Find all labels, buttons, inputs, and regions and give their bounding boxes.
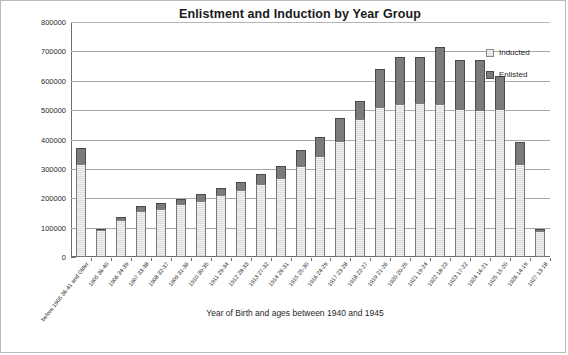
x-axis-tick: [350, 258, 351, 261]
x-axis-tick: [430, 258, 431, 261]
bar-segment-inducted[interactable]: [256, 184, 266, 257]
bar-segment-inducted[interactable]: [296, 166, 306, 257]
bar-segment-enlisted[interactable]: [395, 57, 405, 105]
bar-segment-enlisted[interactable]: [76, 148, 86, 163]
bar-segment-enlisted[interactable]: [375, 69, 385, 107]
bar-stack[interactable]: [176, 199, 186, 257]
bar-segment-inducted[interactable]: [495, 109, 505, 257]
bar-group[interactable]: [191, 22, 211, 257]
y-axis-tick-label: 200000: [10, 194, 66, 203]
bar-segment-inducted[interactable]: [196, 201, 206, 257]
legend-item[interactable]: Inducted: [486, 48, 558, 57]
x-axis-tick: [111, 258, 112, 261]
y-axis-tick-label: 0: [10, 253, 66, 262]
bar-group[interactable]: [350, 22, 370, 257]
bar-segment-inducted[interactable]: [136, 211, 146, 257]
bar-segment-enlisted[interactable]: [455, 60, 465, 108]
bar-segment-enlisted[interactable]: [355, 101, 365, 119]
bar-segment-inducted[interactable]: [415, 103, 425, 257]
y-axis-tick-label: 500000: [10, 106, 66, 115]
x-axis-tick-labels: before 1905 36-41 and Older1905 36-40190…: [71, 261, 550, 313]
bar-stack[interactable]: [475, 60, 485, 257]
bar-stack[interactable]: [136, 206, 146, 257]
bar-segment-enlisted[interactable]: [435, 47, 445, 104]
bar-group[interactable]: [291, 22, 311, 257]
legend-swatch-inducted: [486, 49, 494, 57]
bar-segment-inducted[interactable]: [276, 178, 286, 257]
bar-segment-enlisted[interactable]: [296, 150, 306, 166]
bar-group[interactable]: [430, 22, 450, 257]
bar-segment-inducted[interactable]: [216, 195, 226, 257]
bar-segment-inducted[interactable]: [335, 141, 345, 257]
bar-group[interactable]: [390, 22, 410, 257]
bar-stack[interactable]: [395, 57, 405, 257]
bar-group[interactable]: [251, 22, 271, 257]
bar-segment-enlisted[interactable]: [256, 174, 266, 184]
bar-segment-enlisted[interactable]: [515, 142, 525, 164]
bar-segment-enlisted[interactable]: [315, 137, 325, 155]
bar-group[interactable]: [370, 22, 390, 257]
bar-group[interactable]: [211, 22, 231, 257]
bar-stack[interactable]: [495, 76, 505, 257]
bar-stack[interactable]: [196, 194, 206, 257]
y-axis-tick-labels: 8000007000006000005000004000003000002000…: [6, 22, 66, 258]
bar-stack[interactable]: [236, 182, 246, 257]
bar-stack[interactable]: [535, 229, 545, 257]
bar-segment-inducted[interactable]: [116, 220, 126, 257]
bar-segment-enlisted[interactable]: [475, 60, 485, 110]
bar-segment-inducted[interactable]: [176, 204, 186, 257]
x-axis-tick: [370, 258, 371, 261]
bar-stack[interactable]: [375, 69, 385, 257]
x-axis-tick-label: 1914 26-31: [267, 261, 289, 287]
bar-stack[interactable]: [455, 60, 465, 257]
bar-segment-inducted[interactable]: [236, 190, 246, 257]
bar-stack[interactable]: [335, 118, 345, 257]
bar-group[interactable]: [450, 22, 470, 257]
bar-stack[interactable]: [216, 188, 226, 257]
x-axis-tick: [530, 258, 531, 261]
bar-group[interactable]: [131, 22, 151, 257]
bar-group[interactable]: [151, 22, 171, 257]
bar-group[interactable]: [91, 22, 111, 257]
bar-group[interactable]: [171, 22, 191, 257]
legend-item[interactable]: Enlisted: [486, 70, 558, 79]
bar-segment-enlisted[interactable]: [415, 57, 425, 103]
bar-segment-inducted[interactable]: [475, 110, 485, 257]
bar-segment-inducted[interactable]: [96, 230, 106, 257]
bar-group[interactable]: [71, 22, 91, 257]
x-axis-tick-label: 1927 13-18: [526, 261, 548, 287]
bar-stack[interactable]: [296, 150, 306, 257]
bar-segment-inducted[interactable]: [435, 104, 445, 257]
bar-stack[interactable]: [76, 148, 86, 257]
bar-segment-inducted[interactable]: [515, 164, 525, 257]
bar-stack[interactable]: [116, 217, 126, 257]
bar-stack[interactable]: [96, 229, 106, 257]
bar-group[interactable]: [330, 22, 350, 257]
bar-group[interactable]: [111, 22, 131, 257]
bar-segment-inducted[interactable]: [156, 209, 166, 257]
bar-stack[interactable]: [276, 166, 286, 257]
bar-group[interactable]: [231, 22, 251, 257]
bar-segment-inducted[interactable]: [76, 164, 86, 257]
bar-segment-enlisted[interactable]: [335, 118, 345, 141]
bar-stack[interactable]: [256, 174, 266, 257]
x-axis-tick: [490, 258, 491, 261]
bar-segment-inducted[interactable]: [395, 104, 405, 257]
bar-stack[interactable]: [156, 203, 166, 257]
bar-segment-inducted[interactable]: [455, 109, 465, 257]
bar-stack[interactable]: [415, 57, 425, 257]
bar-stack[interactable]: [515, 142, 525, 257]
bar-stack[interactable]: [435, 47, 445, 257]
y-axis-tick-label: 100000: [10, 223, 66, 232]
bar-segment-inducted[interactable]: [375, 107, 385, 257]
bar-segment-inducted[interactable]: [535, 231, 545, 257]
bar-segment-inducted[interactable]: [315, 156, 325, 257]
bar-stack[interactable]: [315, 137, 325, 257]
bar-segment-enlisted[interactable]: [276, 166, 286, 178]
bar-segment-inducted[interactable]: [355, 119, 365, 257]
bar-group[interactable]: [410, 22, 430, 257]
bar-segment-enlisted[interactable]: [236, 182, 246, 190]
bar-stack[interactable]: [355, 101, 365, 257]
bar-group[interactable]: [311, 22, 331, 257]
bar-group[interactable]: [271, 22, 291, 257]
